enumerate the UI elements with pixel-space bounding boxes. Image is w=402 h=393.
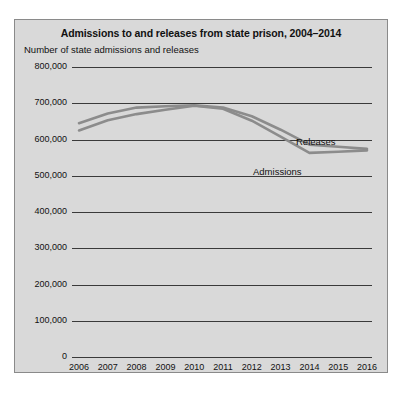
series-label-releases: Releases bbox=[296, 136, 336, 147]
chart-figure: Admissions to and releases from state pr… bbox=[14, 19, 388, 373]
series-label-admissions: Admissions bbox=[253, 166, 302, 177]
data-lines bbox=[15, 20, 389, 374]
plot-area: 0100,000200,000300,000400,000500,000600,… bbox=[15, 20, 387, 372]
